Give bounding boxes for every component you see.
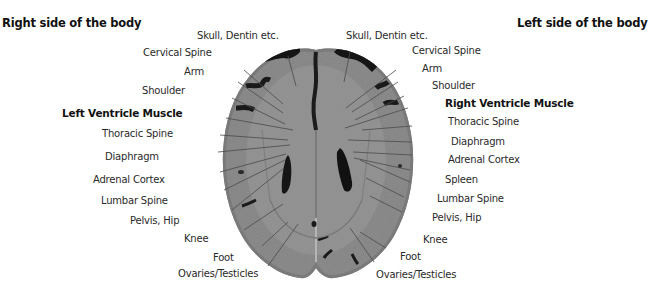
label-right-diaphragm: Diaphragm: [451, 136, 505, 148]
label-left-diaphragm: Diaphragm: [105, 151, 159, 163]
label-right-cervical-spine: Cervical Spine: [412, 45, 481, 57]
label-right-lumbar-spine: Lumbar Spine: [437, 193, 504, 205]
label-right-adrenal-cortex: Adrenal Cortex: [448, 154, 520, 166]
brain-reflex-diagram: Right side of the body Left side of the …: [0, 0, 662, 296]
label-right-skull-dentin: Skull, Dentin etc.: [346, 30, 428, 42]
label-right-shoulder: Shoulder: [432, 80, 475, 92]
label-left-shoulder: Shoulder: [142, 85, 185, 97]
label-left-ovaries-testicles: Ovaries/Testicles: [178, 268, 258, 280]
label-right-knee: Knee: [423, 234, 447, 246]
label-left-adrenal-cortex: Adrenal Cortex: [93, 174, 165, 186]
label-left-pelvis-hip: Pelvis, Hip: [130, 215, 179, 227]
label-left-lumbar-spine: Lumbar Spine: [101, 195, 168, 207]
label-left-ventricle-muscle: Left Ventricle Muscle: [62, 107, 183, 119]
label-left-cervical-spine: Cervical Spine: [143, 47, 212, 59]
label-right-pelvis-hip: Pelvis, Hip: [432, 212, 481, 224]
label-right-thoracic-spine: Thoracic Spine: [448, 116, 519, 128]
label-left-skull-dentin: Skull, Dentin etc.: [197, 30, 279, 42]
label-left-arm: Arm: [184, 66, 204, 78]
label-right-spleen: Spleen: [445, 174, 478, 186]
label-right-arm: Arm: [422, 63, 442, 75]
brain-ct-image: [0, 0, 662, 296]
label-right-ventricle-muscle: Right Ventricle Muscle: [445, 97, 574, 109]
label-right-ovaries-testicles: Ovaries/Testicles: [376, 269, 456, 281]
label-right-foot: Foot: [400, 251, 421, 263]
label-left-thoracic-spine: Thoracic Spine: [102, 128, 173, 140]
label-left-knee: Knee: [184, 233, 208, 245]
label-left-foot: Foot: [213, 252, 234, 264]
